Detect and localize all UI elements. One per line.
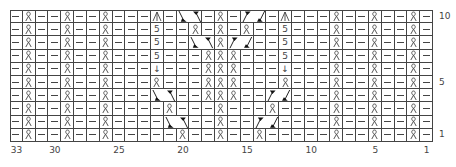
purl-cell	[177, 36, 190, 49]
purl-cell	[113, 76, 126, 89]
purl-dash-icon	[423, 42, 430, 43]
purl-dash-icon	[307, 82, 314, 83]
purl-cell	[356, 89, 369, 102]
purl-dash-icon	[243, 121, 250, 122]
twisted-knit-icon	[63, 50, 72, 61]
purl-dash-icon	[76, 68, 83, 69]
purl-cell	[74, 50, 87, 63]
twisted-knit-icon	[165, 103, 174, 114]
twisted-knit-cell	[330, 63, 343, 76]
purl-cell	[10, 36, 23, 49]
purl-cell	[151, 129, 164, 142]
purl-dash-icon	[89, 82, 96, 83]
twisted-knit-cell	[407, 76, 420, 89]
twisted-knit-icon	[216, 11, 225, 22]
purl-dash-icon	[397, 29, 404, 30]
purl-dash-icon	[346, 68, 353, 69]
purl-dash-icon	[358, 121, 365, 122]
purl-cell	[305, 63, 318, 76]
purl-cell	[292, 23, 305, 36]
bobble-cell: 5	[151, 50, 164, 63]
purl-cell	[420, 50, 433, 63]
purl-cell	[36, 10, 49, 23]
purl-cell	[420, 116, 433, 129]
twisted-knit-icon	[370, 63, 379, 74]
purl-cell	[164, 23, 177, 36]
purl-cell	[125, 50, 138, 63]
twisted-knit-cell	[100, 63, 113, 76]
purl-dash-icon	[89, 16, 96, 17]
purl-cell	[125, 23, 138, 36]
purl-cell	[36, 129, 49, 142]
purl-dash-icon	[179, 29, 186, 30]
purl-cell	[343, 36, 356, 49]
twisted-knit-icon	[204, 63, 213, 74]
purl-dash-icon	[282, 134, 289, 135]
purl-dash-icon	[205, 121, 212, 122]
purl-cell	[10, 89, 23, 102]
purl-cell	[254, 102, 267, 115]
purl-dash-icon	[320, 82, 327, 83]
purl-cell	[36, 76, 49, 89]
purl-dash-icon	[76, 82, 83, 83]
purl-dash-icon	[423, 121, 430, 122]
twisted-knit-cell	[23, 50, 36, 63]
purl-cell	[202, 23, 215, 36]
purl-cell	[74, 36, 87, 49]
purl-dash-icon	[384, 16, 391, 17]
purl-dash-icon	[76, 29, 83, 30]
column-label: 10	[305, 145, 316, 155]
purl-dash-icon	[141, 108, 148, 109]
twisted-knit-cell	[330, 89, 343, 102]
purl-cell	[292, 129, 305, 142]
twisted-knit-cell	[369, 50, 382, 63]
purl-dash-icon	[230, 108, 237, 109]
purl-cell	[228, 23, 241, 36]
purl-dash-icon	[294, 121, 301, 122]
purl-dash-icon	[128, 29, 135, 30]
purl-cell	[292, 63, 305, 76]
purl-dash-icon	[320, 55, 327, 56]
twisted-knit-cell	[61, 102, 74, 115]
purl-cell	[189, 76, 202, 89]
purl-dash-icon	[38, 108, 45, 109]
purl-cell	[74, 63, 87, 76]
purl-cell	[420, 102, 433, 115]
purl-cell	[382, 10, 395, 23]
twisted-knit-cell	[215, 76, 228, 89]
twisted-knit-cell	[330, 50, 343, 63]
twisted-knit-icon	[204, 90, 213, 101]
purl-dash-icon	[51, 82, 58, 83]
purl-cell	[138, 89, 151, 102]
purl-cell	[48, 10, 61, 23]
purl-dash-icon	[256, 68, 263, 69]
purl-dash-icon	[397, 82, 404, 83]
purl-dash-icon	[256, 29, 263, 30]
purl-dash-icon	[358, 68, 365, 69]
twisted-knit-cell	[330, 129, 343, 142]
purl-dash-icon	[179, 42, 186, 43]
purl-cell	[164, 63, 177, 76]
purl-cell	[279, 129, 292, 142]
purl-dash-icon	[38, 134, 45, 135]
purl-cell	[318, 76, 331, 89]
purl-dash-icon	[346, 121, 353, 122]
purl-dash-icon	[346, 55, 353, 56]
twisted-knit-cell	[215, 129, 228, 142]
twisted-knit-icon	[63, 11, 72, 22]
twisted-knit-cell	[407, 89, 420, 102]
column-label: 20	[177, 145, 188, 155]
purl-dash-icon	[76, 55, 83, 56]
cable-right-cross-cell	[189, 36, 215, 49]
purl-cell	[36, 102, 49, 115]
purl-cell	[356, 116, 369, 129]
purl-cell	[241, 50, 254, 63]
purl-dash-icon	[282, 108, 289, 109]
purl-cell	[343, 76, 356, 89]
purl-cell	[164, 10, 177, 23]
purl-dash-icon	[346, 95, 353, 96]
purl-dash-icon	[384, 134, 391, 135]
purl-cell	[292, 76, 305, 89]
column-label: 25	[113, 145, 124, 155]
purl-dash-icon	[384, 55, 391, 56]
